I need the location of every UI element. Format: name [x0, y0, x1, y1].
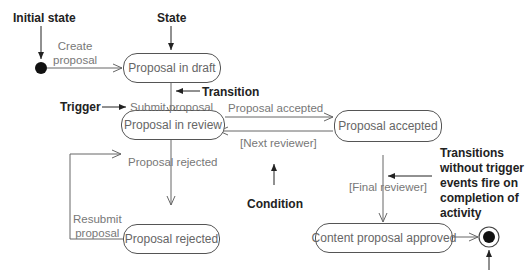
guard-next-reviewer: [Next reviewer] — [240, 136, 317, 150]
annotation-transition: Transition — [202, 85, 259, 99]
initial-state-node — [35, 62, 47, 74]
annotation-state: State — [157, 11, 186, 25]
annotation-condition: Condition — [247, 197, 303, 211]
transition-label-submit: Submit proposal — [130, 100, 213, 114]
transition-label-create: Create proposal — [53, 39, 97, 67]
transition-label-resubmit: Resubmit proposal — [73, 212, 122, 240]
guard-final-reviewer: [Final reviewer] — [349, 180, 427, 194]
state-proposal-rejected: Proposal rejected — [123, 224, 220, 254]
state-proposal-in-review: Proposal in review — [121, 110, 225, 140]
state-content-proposal-approved: Content proposal approved — [315, 223, 453, 253]
transition-label-accepted: Proposal accepted — [228, 101, 323, 115]
annotation-trigger: Trigger — [60, 100, 101, 114]
state-proposal-accepted: Proposal accepted — [334, 110, 442, 142]
annotation-initial-state: Initial state — [13, 11, 76, 25]
transition-label-rejected: Proposal rejected — [128, 155, 218, 169]
state-proposal-in-draft: Proposal in draft — [123, 53, 221, 83]
annotation-no-trigger: Transitions without trigger events fire … — [440, 146, 524, 221]
